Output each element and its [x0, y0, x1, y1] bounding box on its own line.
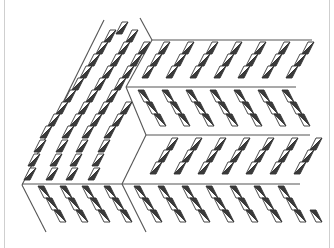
- rhombus-tile: [120, 210, 132, 222]
- panel-bottom-left: [38, 186, 132, 222]
- rhombus-tile: [294, 162, 306, 174]
- rhombus-tile: [66, 168, 78, 180]
- rhombus-tile: [266, 102, 278, 114]
- rhombus-tile: [38, 186, 50, 198]
- rhombus-tile: [56, 102, 68, 114]
- rhombus-tile: [118, 42, 130, 54]
- rhombus-tile: [166, 138, 178, 150]
- rhombus-tile: [78, 102, 90, 114]
- rhombus-tile: [214, 66, 226, 78]
- rhombus-tile: [162, 90, 174, 102]
- rhombus-tile: [112, 198, 124, 210]
- rhombus-tile: [90, 198, 102, 210]
- rhombus-tile: [278, 150, 290, 162]
- rhombus-tile: [120, 102, 132, 114]
- rhombus-tile: [40, 126, 52, 138]
- rhombus-tile: [106, 90, 118, 102]
- rhombus-tile: [294, 210, 306, 222]
- rhombus-tile: [130, 54, 142, 66]
- rhombus-tile: [190, 198, 202, 210]
- rhombus-tile: [88, 168, 100, 180]
- rhombus-tile: [46, 198, 58, 210]
- rhombus-tile: [28, 154, 40, 166]
- rhombus-tile: [246, 210, 258, 222]
- rhombus-tile: [86, 90, 98, 102]
- rhombus-tile: [94, 78, 106, 90]
- rhombus-tile: [282, 90, 294, 102]
- rhombus-tile: [98, 102, 110, 114]
- rhombus-tile: [90, 114, 102, 126]
- rhombus-tile: [286, 66, 298, 78]
- rhombus-tile: [194, 102, 206, 114]
- rhombus-tile: [146, 102, 158, 114]
- rhombus-tile: [230, 186, 242, 198]
- rhombus-tile: [70, 154, 82, 166]
- rhombus-tile: [214, 198, 226, 210]
- rhombus-tile: [226, 114, 238, 126]
- rhombus-tile: [222, 54, 234, 66]
- panel-right-band-1: [142, 42, 314, 78]
- rhombus-tile: [82, 126, 94, 138]
- rhombus-tile: [104, 126, 116, 138]
- rhombus-tile: [150, 162, 162, 174]
- rhombus-tile: [178, 114, 190, 126]
- rhombus-tile: [174, 162, 186, 174]
- panel-right-band-2: [138, 90, 310, 126]
- rhombus-tile: [278, 186, 290, 198]
- rhombus-tile: [114, 78, 126, 90]
- rhombus-tile: [134, 186, 146, 198]
- rhombus-tile: [198, 162, 210, 174]
- divider-line: [140, 18, 152, 40]
- rhombus-tile: [174, 54, 186, 66]
- rhombus-tile: [222, 210, 234, 222]
- rhombus-tile: [96, 42, 108, 54]
- rhombus-tile: [112, 114, 124, 126]
- panel-left-slab: [24, 22, 150, 180]
- rhombus-tile: [298, 114, 310, 126]
- rhombus-tile: [98, 140, 110, 152]
- rhombus-tile: [286, 198, 298, 210]
- rhombus-tile: [150, 54, 162, 66]
- rhombus-tile: [50, 154, 62, 166]
- rhombus-tile: [56, 140, 68, 152]
- rhombus-tile: [206, 150, 218, 162]
- rhombus-tile: [126, 30, 138, 42]
- rhombus-tile: [270, 210, 282, 222]
- rhombus-tile: [274, 114, 286, 126]
- rhombus-tile: [48, 114, 60, 126]
- rhombus-tile: [158, 42, 170, 54]
- rhombus-tile: [246, 162, 258, 174]
- divider-line: [126, 40, 152, 87]
- rhombus-tile: [142, 66, 154, 78]
- rhombus-tile: [158, 150, 170, 162]
- rhombus-tile: [206, 42, 218, 54]
- rhombus-tile: [230, 42, 242, 54]
- rhombus-tile: [166, 66, 178, 78]
- rhombus-tile: [210, 90, 222, 102]
- rhombus-tile: [286, 138, 298, 150]
- rhombus-tile: [238, 138, 250, 150]
- rhombus-tile: [310, 210, 322, 222]
- rhombus-tile: [278, 42, 290, 54]
- rhombus-tile: [174, 210, 186, 222]
- rhombus-tile: [254, 150, 266, 162]
- rhombus-tile: [246, 54, 258, 66]
- rhombus-tile: [190, 66, 202, 78]
- rhombus-tile: [254, 186, 266, 198]
- rhombus-tile: [166, 198, 178, 210]
- panel-right-band-3: [150, 138, 322, 174]
- rhombus-tile: [182, 150, 194, 162]
- rhombus-tile: [270, 54, 282, 66]
- rhombus-tile: [258, 90, 270, 102]
- rhombus-tile: [182, 42, 194, 54]
- rhombus-tile: [154, 114, 166, 126]
- rhombus-tile: [262, 66, 274, 78]
- rhombus-tile: [150, 210, 162, 222]
- rhombus-tile: [238, 66, 250, 78]
- rhombus-tile: [234, 90, 246, 102]
- rhombus-tile: [190, 138, 202, 150]
- rhombus-tile: [98, 210, 110, 222]
- rhombus-tile: [70, 114, 82, 126]
- tessellation-illustration: [0, 0, 334, 248]
- rhombus-tile: [88, 54, 100, 66]
